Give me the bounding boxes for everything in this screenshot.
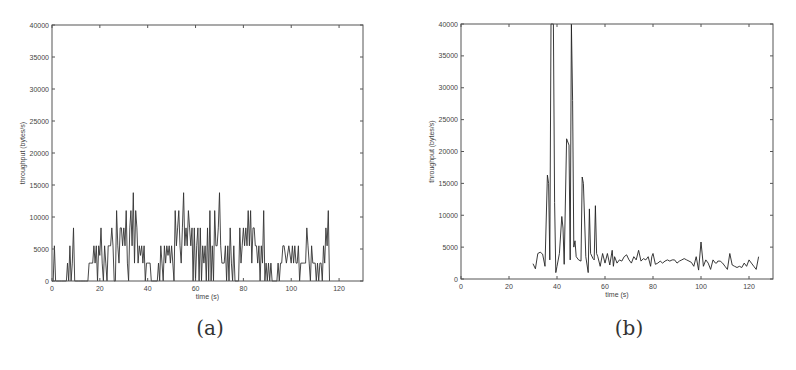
data-series-line xyxy=(52,193,330,281)
x-tick-label: 100 xyxy=(285,285,297,292)
y-tick-label: 35000 xyxy=(30,54,50,61)
y-tick-label: 10000 xyxy=(30,214,50,221)
y-tick-label: 10000 xyxy=(439,212,459,219)
x-tick-label: 120 xyxy=(333,285,345,292)
x-tick-label: 60 xyxy=(601,283,609,290)
x-tick-label: 100 xyxy=(695,283,707,290)
x-tick-label: 40 xyxy=(553,283,561,290)
x-tick-label: 80 xyxy=(239,285,247,292)
x-tick-label: 20 xyxy=(96,285,104,292)
y-tick-label: 25000 xyxy=(30,118,50,125)
x-tick-label: 80 xyxy=(649,283,657,290)
y-tick-label: 20000 xyxy=(439,148,459,155)
x-tick-label: 0 xyxy=(459,283,463,290)
y-axis-label: throughput (bytes/s) xyxy=(19,122,27,184)
x-axis-label: time (s) xyxy=(605,291,628,299)
x-tick-label: 0 xyxy=(50,285,54,292)
caption-b: (b) xyxy=(599,316,659,340)
y-tick-label: 0 xyxy=(454,276,458,283)
caption-a: (a) xyxy=(180,316,240,340)
x-tick-label: 60 xyxy=(192,285,200,292)
y-tick-label: 0 xyxy=(45,278,49,285)
y-tick-label: 30000 xyxy=(30,86,50,93)
x-tick-label: 20 xyxy=(505,283,513,290)
y-tick-label: 25000 xyxy=(439,116,459,123)
y-tick-label: 15000 xyxy=(30,182,50,189)
y-tick-label: 40000 xyxy=(439,21,459,28)
throughput-chart-a: 0500010000150002000025000300003500040000… xyxy=(0,0,400,370)
y-tick-label: 5000 xyxy=(442,244,458,251)
y-tick-label: 30000 xyxy=(439,84,459,91)
y-tick-label: 35000 xyxy=(439,52,459,59)
chart-panel-b: 0500010000150002000025000300003500040000… xyxy=(400,0,796,370)
data-series-line xyxy=(533,24,759,273)
y-tick-label: 20000 xyxy=(30,150,50,157)
plot-frame xyxy=(461,24,773,279)
y-tick-label: 15000 xyxy=(439,180,459,187)
x-tick-label: 120 xyxy=(743,283,755,290)
y-tick-label: 5000 xyxy=(33,246,49,253)
y-tick-label: 40000 xyxy=(30,22,50,29)
y-axis-label: throughput (bytes/s) xyxy=(428,120,436,182)
x-axis-label: time (s) xyxy=(196,293,219,301)
chart-panel-a: 0500010000150002000025000300003500040000… xyxy=(0,0,400,370)
x-tick-label: 40 xyxy=(144,285,152,292)
throughput-chart-b: 0500010000150002000025000300003500040000… xyxy=(400,0,796,370)
